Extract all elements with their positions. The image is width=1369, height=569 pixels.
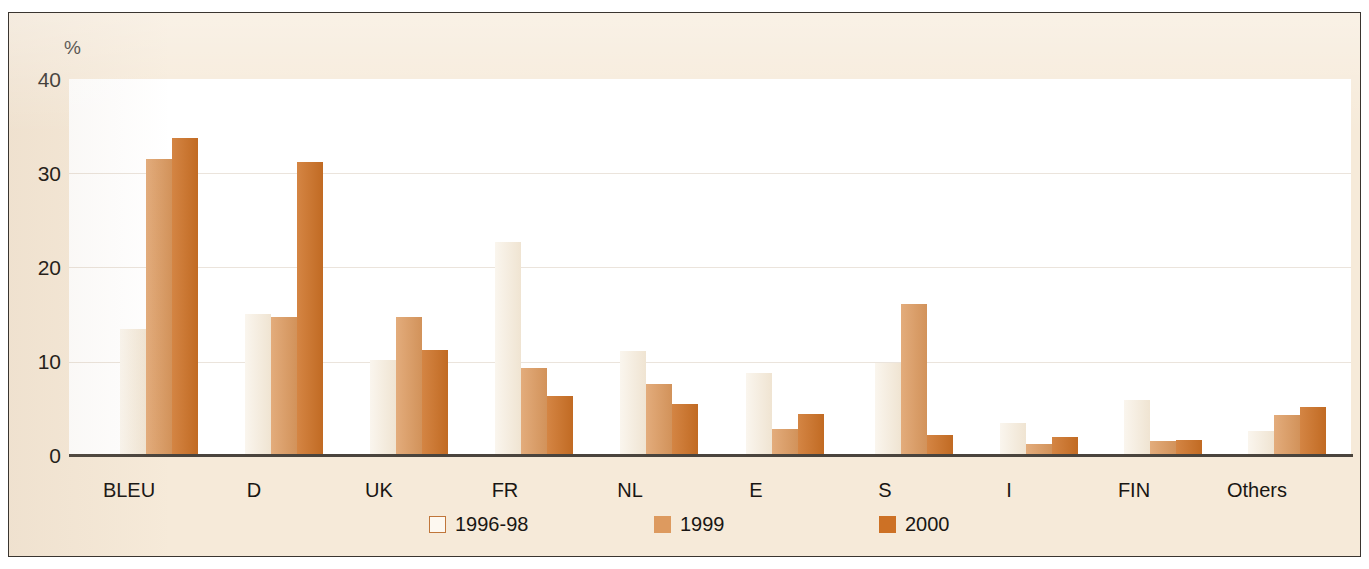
bar-group-d: [245, 79, 323, 456]
bar-s-1999: [901, 304, 927, 456]
bar-uk-1996-98: [370, 360, 396, 456]
x-tick-label-uk: UK: [319, 479, 439, 502]
bar-others-1996-98: [1248, 431, 1274, 456]
chart-figure: % 40 30 20 10 0 BLEU D UK FR NL E S I FI…: [0, 0, 1369, 569]
bar-group-nl: [620, 79, 698, 456]
x-tick-label-e: E: [696, 479, 816, 502]
bar-nl-1996-98: [620, 351, 646, 456]
legend-swatch-2000: [879, 516, 896, 533]
bar-fin-1996-98: [1124, 400, 1150, 456]
bar-group-fin: [1124, 79, 1202, 456]
bar-i-1996-98: [1000, 423, 1026, 456]
legend-swatch-1996-98: [429, 516, 446, 533]
bar-s-2000: [927, 435, 953, 456]
bar-nl-2000: [672, 404, 698, 456]
bar-group-others: [1248, 79, 1326, 456]
x-tick-label-nl: NL: [570, 479, 690, 502]
legend-item-1996-98[interactable]: 1996-98: [429, 513, 528, 536]
legend-item-1999[interactable]: 1999: [654, 513, 725, 536]
bar-e-2000: [798, 414, 824, 456]
legend-label-1999: 1999: [680, 513, 725, 536]
bar-group-e: [746, 79, 824, 456]
bar-others-2000: [1300, 407, 1326, 456]
y-tick-label-10: 10: [15, 350, 61, 374]
x-tick-label-fr: FR: [445, 479, 565, 502]
legend-item-2000[interactable]: 2000: [879, 513, 950, 536]
bar-group-fr: [495, 79, 573, 456]
bar-bleu-1999: [146, 159, 172, 456]
bar-others-1999: [1274, 415, 1300, 456]
y-tick-label-20: 20: [15, 256, 61, 280]
x-axis-line: [69, 454, 1353, 457]
bar-s-1996-98: [875, 363, 901, 456]
bar-uk-2000: [422, 350, 448, 457]
bar-fr-1999: [521, 368, 547, 456]
y-tick-label-30: 30: [15, 162, 61, 186]
bar-group-s: [875, 79, 953, 456]
bar-fr-1996-98: [495, 242, 521, 456]
bar-e-1996-98: [746, 373, 772, 456]
bar-bleu-1996-98: [120, 329, 146, 456]
bar-d-1999: [271, 317, 297, 456]
bar-e-1999: [772, 429, 798, 456]
bar-group-bleu: [120, 79, 198, 456]
x-tick-label-s: S: [825, 479, 945, 502]
x-tick-label-bleu: BLEU: [69, 479, 189, 502]
legend-label-1996-98: 1996-98: [455, 513, 528, 536]
bar-nl-1999: [646, 384, 672, 456]
x-tick-label-fin: FIN: [1074, 479, 1194, 502]
bar-uk-1999: [396, 317, 422, 456]
y-axis-unit-label: %: [64, 37, 81, 59]
chart-panel: % 40 30 20 10 0 BLEU D UK FR NL E S I FI…: [8, 12, 1361, 557]
bar-bleu-2000: [172, 138, 198, 456]
bar-d-2000: [297, 162, 323, 456]
bar-d-1996-98: [245, 314, 271, 456]
y-tick-label-0: 0: [15, 444, 61, 468]
x-tick-label-d: D: [194, 479, 314, 502]
plot-area: [69, 79, 1351, 456]
x-tick-label-others: Others: [1197, 479, 1317, 502]
y-tick-label-40: 40: [15, 68, 61, 92]
x-tick-label-i: I: [949, 479, 1069, 502]
legend-swatch-1999: [654, 516, 671, 533]
bar-fr-2000: [547, 396, 573, 456]
legend-label-2000: 2000: [905, 513, 950, 536]
bar-group-uk: [370, 79, 448, 456]
bar-container: [69, 79, 1351, 456]
bar-group-i: [1000, 79, 1078, 456]
legend: 1996-98 1999 2000: [9, 513, 1360, 547]
